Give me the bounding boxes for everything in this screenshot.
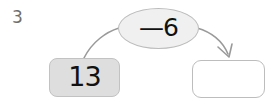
operation-label: —6 [139,15,178,40]
operation-oval: —6 [118,8,199,49]
arrow-oval-to-answer-path [197,28,228,54]
worksheet-problem: 3 13 —6 [0,0,280,105]
question-number: 3 [12,9,23,26]
answer-value-text[interactable] [193,61,264,97]
curve-input-to-oval-path [84,28,119,58]
arrowhead-icon [218,44,232,57]
answer-input-box[interactable] [192,60,265,98]
input-value-box: 13 [49,58,120,97]
input-value-text: 13 [68,63,100,90]
